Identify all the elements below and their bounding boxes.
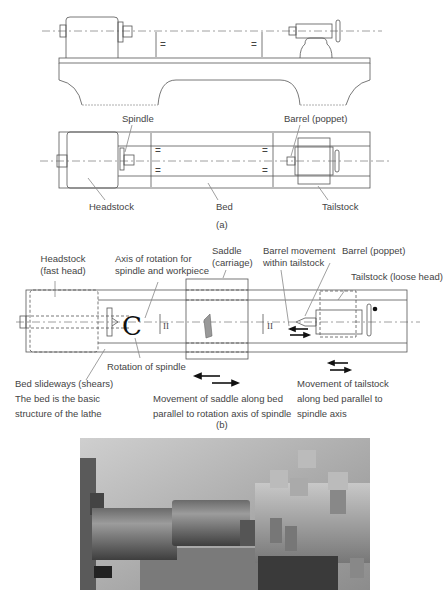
label-headstock-b: Headstock (fast head) xyxy=(40,253,86,277)
svg-text:=: = xyxy=(262,165,268,176)
label-tailstock: Tailstock xyxy=(322,201,358,213)
svg-text:C: C xyxy=(122,311,142,341)
svg-text:=: = xyxy=(262,145,268,156)
svg-text:=: = xyxy=(155,145,161,156)
label-saddle: Saddle (carriage) xyxy=(212,245,253,269)
svg-text:II: II xyxy=(267,321,273,331)
caption-a: (a) xyxy=(216,219,228,231)
svg-text:=: = xyxy=(251,39,257,50)
label-spindle: Spindle xyxy=(122,113,154,125)
label-barrel-poppet-b: Barrel (poppet) xyxy=(342,245,405,257)
caption-b: (b) xyxy=(216,419,228,431)
svg-text:=: = xyxy=(160,39,166,50)
lathe-photo-drawing xyxy=(80,438,370,590)
label-barrel-movement: Barrel movement within tailstock xyxy=(263,245,335,269)
label-tailstock-loose-head: Tailstock (loose head) xyxy=(351,271,443,283)
label-rotation-of-spindle: Rotation of spindle xyxy=(107,361,186,373)
svg-text:=: = xyxy=(155,165,161,176)
label-headstock: Headstock xyxy=(89,201,134,213)
label-axis-of-rotation: Axis of rotation for spindle and workpie… xyxy=(115,253,209,277)
label-tailstock-movement: Movement of tailstock along bed parallel… xyxy=(297,376,389,421)
label-bed-slideways: Bed slideways (shears) The bed is the ba… xyxy=(15,376,113,421)
label-bed: Bed xyxy=(216,201,233,213)
label-saddle-movement: Movement of saddle along bed parallel to… xyxy=(153,391,291,421)
svg-text:II: II xyxy=(163,321,169,331)
lathe-photo xyxy=(80,438,370,590)
label-barrel: Barrel (poppet) xyxy=(284,113,347,125)
